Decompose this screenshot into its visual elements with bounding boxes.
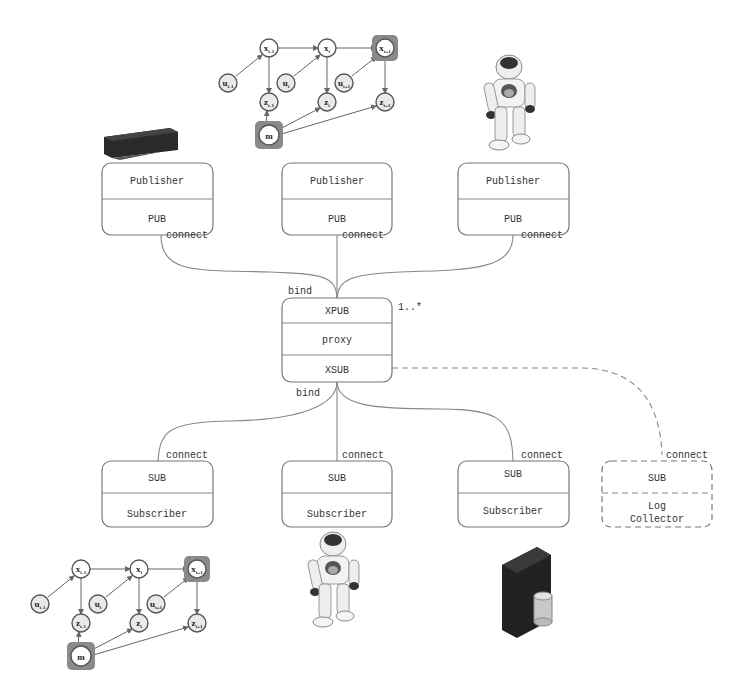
bayesian-network-icon-bottom: xt-1 xt xt+1 ut-1 ut ut+1 zt-1 zt zt+1 m	[31, 556, 210, 670]
log-collector-box[interactable]: SUB Log Collector	[602, 461, 712, 527]
publisher-box-3[interactable]: Publisher PUB	[458, 163, 569, 235]
database-server-icon	[502, 547, 552, 638]
subscriber-edges	[158, 368, 662, 461]
connect-label: connect	[166, 450, 208, 461]
bind-label-top: bind	[288, 286, 312, 297]
publisher-edges	[161, 235, 513, 298]
pub-socket-label: PUB	[148, 214, 166, 225]
log-collector-title-line1: Log	[648, 501, 666, 512]
connect-label: connect	[666, 450, 708, 461]
proxy-box[interactable]: XPUB proxy XSUB	[282, 298, 392, 382]
connect-label: connect	[342, 230, 384, 241]
connect-label: connect	[521, 230, 563, 241]
xpub-socket-label: XPUB	[325, 306, 349, 317]
connect-label: connect	[521, 450, 563, 461]
proxy-label: proxy	[322, 335, 352, 346]
publisher-title: Publisher	[310, 176, 364, 187]
sub-socket-label: SUB	[148, 473, 166, 484]
pub-socket-label: PUB	[328, 214, 346, 225]
connect-label: connect	[342, 450, 384, 461]
sub-socket-label: SUB	[504, 469, 522, 480]
subscriber-box-2[interactable]: SUB Subscriber	[282, 461, 392, 527]
subscriber-title: Subscriber	[483, 506, 543, 517]
connect-label: connect	[166, 230, 208, 241]
publisher-title: Publisher	[130, 176, 184, 187]
subscriber-box-1[interactable]: SUB Subscriber	[102, 461, 213, 527]
humanoid-robot-icon-top	[483, 55, 535, 150]
publisher-title: Publisher	[486, 176, 540, 187]
humanoid-robot-icon-bottom	[307, 532, 359, 627]
svg-text:m: m	[265, 131, 273, 141]
multiplicity-label: 1..*	[398, 302, 422, 313]
publisher-box-1[interactable]: Publisher PUB	[102, 163, 213, 235]
subscriber-title: Subscriber	[307, 509, 367, 520]
sub-socket-label: SUB	[328, 473, 346, 484]
bayesian-network-icon-top: xt-1 xt xt+1 ut-1 ut ut+1 zt-1 zt zt+1 m	[219, 35, 398, 149]
xsub-socket-label: XSUB	[325, 365, 349, 376]
sub-socket-label: SUB	[648, 473, 666, 484]
bind-label-bottom: bind	[296, 388, 320, 399]
log-collector-title-line2: Collector	[630, 514, 684, 525]
subscriber-title: Subscriber	[127, 509, 187, 520]
subscriber-box-3[interactable]: SUB Subscriber	[458, 461, 569, 527]
svg-text:m: m	[77, 652, 85, 662]
publisher-box-2[interactable]: Publisher PUB	[282, 163, 392, 235]
pub-socket-label: PUB	[504, 214, 522, 225]
zeromq-pubsub-diagram: xt-1 xt xt+1 ut-1 ut ut+1 zt-1 zt zt+1 m	[0, 0, 751, 683]
depth-sensor-icon	[104, 128, 178, 160]
